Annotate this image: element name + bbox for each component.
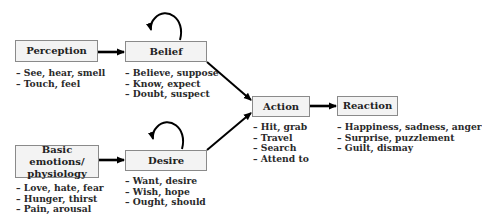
belief-self-loop xyxy=(151,13,181,40)
node-label-line2: physiology xyxy=(27,168,86,180)
perception-items: See, hear, smell Touch, feel xyxy=(16,68,105,89)
list-item: Attend to xyxy=(253,154,309,165)
node-desire: Desire xyxy=(125,150,207,171)
list-item: Want, desire xyxy=(125,176,206,187)
node-label: Desire xyxy=(148,155,184,167)
desire-items: Want, desire Wish, hope Ought, should xyxy=(125,176,206,208)
list-item: Ought, should xyxy=(125,197,206,208)
list-item: Hit, grab xyxy=(253,122,309,133)
node-basic-emotions: Basic emotions/ physiology xyxy=(15,145,99,178)
node-reaction: Reaction xyxy=(337,96,398,116)
list-item: Guilt, dismay xyxy=(337,143,482,154)
node-label: Perception xyxy=(26,45,87,57)
node-label: Reaction xyxy=(343,100,393,112)
basic-items: Love, hate, fear Hunger, thirst Pain, ar… xyxy=(16,183,104,215)
list-item: Believe, suppose xyxy=(125,68,219,79)
node-label-line1: Basic emotions/ xyxy=(16,144,98,168)
node-belief: Belief xyxy=(125,41,207,62)
list-item: Pain, arousal xyxy=(16,204,104,215)
list-item: Touch, feel xyxy=(16,79,105,90)
belief-items: Believe, suppose Know, expect Doubt, sus… xyxy=(125,68,219,100)
node-label: Belief xyxy=(149,46,182,58)
action-items: Hit, grab Travel Search Attend to xyxy=(253,122,309,164)
list-item: See, hear, smell xyxy=(16,68,105,79)
edge-desire-action xyxy=(207,113,251,150)
list-item: Doubt, suspect xyxy=(125,89,219,100)
reaction-items: Happiness, sadness, anger Surprise, puzz… xyxy=(337,122,482,154)
node-action: Action xyxy=(252,96,310,117)
node-perception: Perception xyxy=(15,40,98,62)
node-label: Action xyxy=(263,101,299,113)
list-item: Love, hate, fear xyxy=(16,183,104,194)
list-item: Happiness, sadness, anger xyxy=(337,122,482,133)
desire-self-loop xyxy=(153,122,183,149)
